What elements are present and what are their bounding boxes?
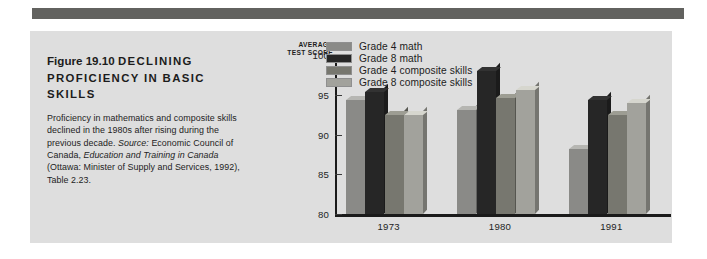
bar [627, 103, 646, 214]
bar [516, 90, 535, 214]
top-banner-rule [32, 8, 684, 19]
y-axis-tick-label: 85 [291, 169, 329, 180]
y-axis-tick [335, 135, 342, 136]
bar-side-face [423, 106, 427, 214]
bar [404, 115, 423, 214]
legend-item[interactable]: Grade 4 math [326, 40, 472, 52]
y-axis-tick [335, 214, 342, 215]
y-axis-tick-label: 90 [291, 129, 329, 140]
legend-label: Grade 8 composite skills [359, 77, 472, 88]
legend-item[interactable]: Grade 4 composite skills [326, 64, 472, 76]
bar [385, 115, 404, 214]
x-axis-category-label: 1973 [349, 221, 429, 232]
caption-source-label: Source: [118, 138, 149, 148]
legend-swatch-icon [326, 66, 352, 75]
bar-face [496, 98, 515, 214]
bar-face [569, 149, 588, 214]
bar-chart: AVERAGE TEST SCORE 80859095100 197319801… [295, 31, 672, 243]
x-axis-category-label: 1980 [460, 221, 540, 232]
bar-face [457, 110, 476, 214]
bar-face [608, 115, 627, 214]
bar-side-face [535, 82, 539, 214]
figure-title: Figure 19.10 DECLINING PROFICIENCY IN BA… [47, 53, 252, 103]
legend-swatch-icon [326, 78, 352, 87]
bar-face [516, 90, 535, 214]
legend-swatch-icon [326, 42, 352, 51]
bar-face [404, 115, 423, 214]
bar [477, 71, 496, 214]
bar-side-face [646, 95, 650, 214]
legend-label: Grade 8 math [359, 53, 423, 64]
figure-caption-block: Figure 19.10 DECLINING PROFICIENCY IN BA… [47, 53, 252, 186]
legend-item[interactable]: Grade 8 composite skills [326, 76, 472, 88]
figure-panel: Figure 19.10 DECLINING PROFICIENCY IN BA… [30, 31, 672, 243]
caption-source-title: Education and Training in Canada [83, 150, 218, 160]
bar-face [477, 71, 496, 214]
bar-face [365, 92, 384, 214]
bar [496, 98, 515, 214]
x-axis-line [335, 214, 671, 217]
bar [608, 115, 627, 214]
y-axis-tick [335, 95, 342, 96]
bar-face [346, 100, 365, 214]
chart-legend: Grade 4 mathGrade 8 mathGrade 4 composit… [326, 40, 472, 88]
bar [365, 92, 384, 214]
legend-swatch-icon [326, 54, 352, 63]
figure-description: Proficiency in mathematics and composite… [47, 112, 252, 186]
y-axis-tick-label: 80 [291, 209, 329, 220]
bar-face [588, 100, 607, 214]
y-axis-tick-label: 100 [291, 50, 329, 61]
y-axis-tick [335, 174, 342, 175]
y-axis-title-line1: AVERAGE [253, 41, 333, 49]
legend-label: Grade 4 composite skills [359, 65, 472, 76]
legend-item[interactable]: Grade 8 math [326, 52, 472, 64]
y-axis-tick-label: 95 [291, 89, 329, 100]
figure-number: Figure 19.10 [47, 54, 115, 67]
bar [457, 110, 476, 214]
bar [346, 100, 365, 214]
legend-label: Grade 4 math [359, 41, 423, 52]
bar [588, 100, 607, 214]
bar [569, 149, 588, 214]
caption-text-3: (Ottawa: Minister of Supply and Services… [47, 162, 240, 184]
bar-face [627, 103, 646, 214]
bar-face [385, 115, 404, 214]
x-axis-category-label: 1991 [571, 221, 651, 232]
